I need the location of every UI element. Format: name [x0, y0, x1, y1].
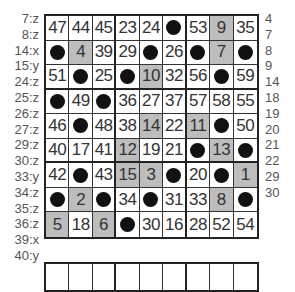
cell-number: 21 — [165, 140, 183, 160]
grid-cell-shaded[interactable]: 3 — [140, 163, 163, 188]
cell-number: 37 — [165, 91, 183, 111]
grid2-cell — [116, 264, 139, 290]
grid-cell-dot[interactable] — [234, 139, 257, 164]
grid-cell[interactable]: 23 — [116, 16, 139, 41]
grid-cell[interactable]: 16 — [163, 212, 186, 237]
grid-cell[interactable]: 40 — [46, 139, 69, 164]
grid-cell[interactable]: 36 — [116, 90, 139, 115]
grid-cell[interactable]: 52 — [210, 212, 233, 237]
grid-cell[interactable]: 51 — [46, 65, 69, 90]
grid-cell-shaded[interactable]: 11 — [187, 114, 210, 139]
grid-cell[interactable]: 26 — [163, 41, 186, 66]
grid-cell[interactable]: 19 — [140, 139, 163, 164]
grid-cell[interactable]: 31 — [163, 188, 186, 213]
cell-number: 39 — [95, 42, 113, 62]
grid-cell[interactable]: 34 — [116, 188, 139, 213]
grid-cell-shaded[interactable]: 7 — [210, 41, 233, 66]
cell-number: 13 — [212, 140, 230, 160]
black-dot-icon — [214, 168, 229, 183]
grid-cell[interactable]: 58 — [210, 90, 233, 115]
grid-cell-dot[interactable] — [46, 90, 69, 115]
grid-cell[interactable]: 18 — [69, 212, 92, 237]
cell-number: 20 — [189, 165, 207, 185]
grid-cell-dot[interactable] — [187, 41, 210, 66]
grid-cell[interactable]: 29 — [116, 41, 139, 66]
grid-cell-shaded[interactable]: 14 — [140, 114, 163, 139]
grid-cell[interactable]: 21 — [163, 139, 186, 164]
grid-cell-dot[interactable] — [46, 188, 69, 213]
grid-cell[interactable]: 56 — [187, 65, 210, 90]
grid-cell[interactable]: 57 — [187, 90, 210, 115]
grid-cell-dot[interactable] — [210, 65, 233, 90]
grid-cell[interactable]: 48 — [93, 114, 116, 139]
grid-cell-shaded[interactable]: 6 — [93, 212, 116, 237]
black-dot-icon — [214, 118, 229, 133]
grid-cell[interactable]: 44 — [69, 16, 92, 41]
grid-cell[interactable]: 39 — [93, 41, 116, 66]
right-clue-label: 14 — [265, 74, 295, 90]
grid-cell-shaded[interactable]: 13 — [210, 139, 233, 164]
grid-cell-shaded[interactable]: 4 — [69, 41, 92, 66]
cell-number: 28 — [189, 215, 207, 235]
grid-cell-dot[interactable] — [210, 114, 233, 139]
grid-cell[interactable]: 22 — [163, 114, 186, 139]
grid-cell-dot[interactable] — [69, 65, 92, 90]
grid-cell[interactable]: 46 — [46, 114, 69, 139]
grid-cell[interactable]: 42 — [46, 163, 69, 188]
grid-cell-dot[interactable] — [163, 16, 186, 41]
black-dot-icon — [238, 45, 253, 60]
grid-cell[interactable]: 27 — [140, 90, 163, 115]
grid-cell-shaded[interactable]: 1 — [234, 163, 257, 188]
cell-number: 16 — [165, 215, 183, 235]
left-clue-label: 25:z — [0, 90, 39, 106]
cell-number: 56 — [189, 66, 207, 86]
grid-cell-dot[interactable] — [140, 188, 163, 213]
grid-cell[interactable]: 49 — [69, 90, 92, 115]
grid-cell-dot[interactable] — [116, 65, 139, 90]
grid-cell-dot[interactable] — [116, 212, 139, 237]
grid-cell-dot[interactable] — [210, 163, 233, 188]
grid-cell[interactable]: 20 — [187, 163, 210, 188]
grid-cell[interactable]: 47 — [46, 16, 69, 41]
grid-cell[interactable]: 55 — [234, 90, 257, 115]
grid-cell[interactable]: 54 — [234, 212, 257, 237]
grid-cell-dot[interactable] — [234, 188, 257, 213]
grid-cell[interactable]: 53 — [187, 16, 210, 41]
grid-cell-dot[interactable] — [46, 41, 69, 66]
grid-cell-dot[interactable] — [187, 139, 210, 164]
grid-cell-dot[interactable] — [163, 163, 186, 188]
cell-number: 17 — [72, 140, 90, 160]
grid-cell-shaded[interactable]: 10 — [140, 65, 163, 90]
cell-number: 58 — [212, 91, 230, 111]
grid-cell-dot[interactable] — [93, 188, 116, 213]
grid-cell[interactable]: 32 — [163, 65, 186, 90]
cell-number: 19 — [142, 140, 160, 160]
grid-cell[interactable]: 59 — [234, 65, 257, 90]
grid-cell[interactable]: 38 — [116, 114, 139, 139]
row-clue-labels-left: 7:z8:z14:x15:y24:z25:z26:z27:z29:z30:z33… — [0, 11, 39, 264]
grid-cell-shaded[interactable]: 2 — [69, 188, 92, 213]
grid-cell[interactable]: 30 — [140, 212, 163, 237]
grid-cell-shaded[interactable]: 5 — [46, 212, 69, 237]
grid-cell-dot[interactable] — [93, 90, 116, 115]
grid-cell[interactable]: 33 — [187, 188, 210, 213]
cell-number: 42 — [48, 165, 66, 185]
grid-cell-dot[interactable] — [234, 41, 257, 66]
grid-cell-dot[interactable] — [140, 41, 163, 66]
grid-cell-shaded[interactable]: 15 — [116, 163, 139, 188]
grid-cell-shaded[interactable]: 8 — [210, 188, 233, 213]
grid-cell[interactable]: 35 — [234, 16, 257, 41]
grid-cell[interactable]: 41 — [93, 139, 116, 164]
grid-cell-shaded[interactable]: 9 — [210, 16, 233, 41]
grid-cell[interactable]: 17 — [69, 139, 92, 164]
grid-cell[interactable]: 45 — [93, 16, 116, 41]
grid-cell[interactable]: 37 — [163, 90, 186, 115]
grid-cell[interactable]: 43 — [93, 163, 116, 188]
grid-cell[interactable]: 25 — [93, 65, 116, 90]
grid-cell-dot[interactable] — [69, 163, 92, 188]
grid-cell[interactable]: 28 — [187, 212, 210, 237]
grid-cell-shaded[interactable]: 12 — [116, 139, 139, 164]
grid-cell[interactable]: 24 — [140, 16, 163, 41]
grid-cell[interactable]: 50 — [234, 114, 257, 139]
grid-cell-dot[interactable] — [69, 114, 92, 139]
